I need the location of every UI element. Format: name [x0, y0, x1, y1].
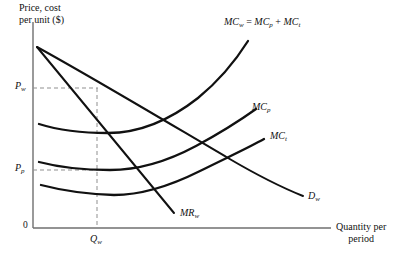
curve-label-mrw-sub: w	[194, 212, 199, 220]
curve-label-mcw: MCw = MCp + MCt	[224, 16, 300, 29]
curve-label-dw-sub: w	[315, 195, 320, 203]
curve-label-mct: MCt	[270, 130, 287, 143]
tick-label-qw: Qw	[90, 233, 102, 246]
curve-label-mct-base: MC	[270, 130, 285, 141]
y-axis-title-line2: per unit ($)	[19, 14, 64, 26]
tick-label-pp-sub: p	[21, 167, 25, 175]
y-axis-title: Price, cost per unit ($)	[19, 2, 64, 25]
curve-mcp	[39, 109, 256, 170]
x-axis-title-line1: Quantity per	[336, 221, 386, 233]
curve-label-mcp-base: MC	[252, 101, 267, 112]
tick-label-pp: Pp	[15, 162, 25, 175]
curve-label-mcw-base3: MC	[283, 16, 298, 27]
origin-label: 0	[23, 220, 28, 230]
y-axis-title-line1: Price, cost	[19, 2, 64, 14]
curve-label-mcw-base2: MC	[254, 16, 269, 27]
economics-figure: Price, cost per unit ($) Quantity per pe…	[0, 0, 393, 255]
curve-label-dw: Dw	[308, 190, 320, 203]
curve-label-mcw-plus: +	[273, 16, 284, 27]
curve-dw	[37, 47, 303, 196]
curve-label-mcp: MCp	[252, 101, 271, 114]
curve-label-mcw-base: MC	[224, 16, 239, 27]
tick-label-pw: Pw	[15, 80, 26, 93]
curve-label-mcp-sub: p	[267, 106, 271, 114]
curve-label-mrw: MRw	[180, 207, 199, 220]
x-axis-title-line2: period	[336, 233, 386, 245]
curve-label-mcw-sub3: t	[298, 21, 300, 29]
curve-label-mct-sub: t	[285, 135, 287, 143]
tick-label-pw-sub: w	[21, 85, 26, 93]
curve-label-mrw-base: MR	[180, 207, 194, 218]
curve-label-mcw-eq: =	[244, 16, 255, 27]
tick-label-qw-sub: w	[97, 238, 102, 246]
x-axis-title: Quantity per period	[336, 221, 386, 244]
